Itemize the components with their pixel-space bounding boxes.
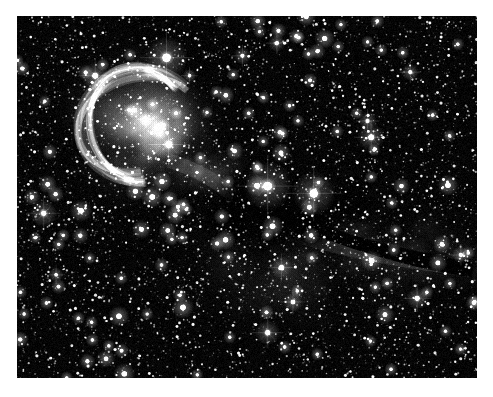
star-field-canvas [17,16,477,378]
image-viewport [0,0,493,397]
astrophoto-plate [17,16,477,378]
